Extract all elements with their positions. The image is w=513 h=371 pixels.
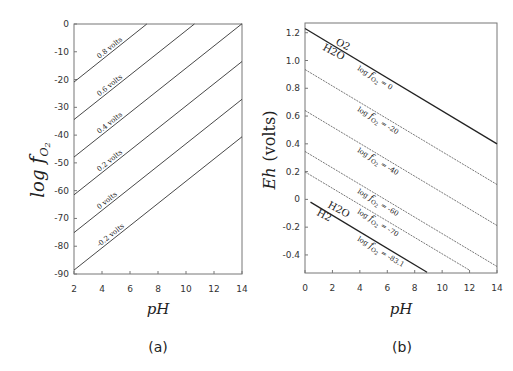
x-tick-label: 12 [464, 283, 475, 293]
x-tick-label: 14 [236, 284, 248, 294]
panel-a: 0-10-20-30-40-50-60-70-80-90 2468101214 … [25, 19, 248, 355]
y-tick-label: -90 [54, 269, 69, 279]
species-o2-h2o: O2 H2O [321, 32, 352, 62]
panel-b-y-axis-title: Eh(volts) [260, 111, 279, 191]
x-tick-label: 14 [491, 283, 503, 293]
line-label: log fO2 = -83.1 [355, 233, 407, 270]
y-tick-label: 0.2 [286, 167, 300, 177]
y-tick-label: -0.2 [282, 222, 300, 232]
panel-a-x-axis-title: pH [147, 300, 171, 318]
y-tick-label: -40 [54, 130, 69, 140]
y-tick-label: -10 [54, 47, 69, 57]
y-tick-label: 1.2 [286, 28, 300, 38]
panel-a-caption: (a) [148, 339, 168, 355]
y-tick-label: 0 [294, 194, 300, 204]
line-label: 0.6 volts [95, 73, 124, 98]
x-tick-label: 8 [155, 284, 161, 294]
panel-b-lines [305, 29, 497, 273]
panel-b-caption: (b) [392, 339, 412, 355]
y-tick-label: -20 [54, 75, 69, 85]
panel-b-y-ticks: 1.21.00.80.60.40.20-0.2-0.4 [282, 28, 308, 260]
x-tick-label: 4 [99, 284, 105, 294]
panel-a-lines [74, 24, 242, 270]
line-label: 0.8 volts [95, 35, 124, 60]
y-tick-label: -70 [54, 213, 69, 223]
y-tick-label: 1.0 [286, 56, 301, 66]
panel-a-line-labels: 0.8 volts0.6 volts0.4 volts0.2 volts0 vo… [95, 35, 126, 248]
line-label: log fO2 = -40 [355, 145, 401, 179]
y-tick-label: 0.8 [286, 83, 301, 93]
x-tick-label: 6 [127, 284, 133, 294]
y-tick-label: -30 [54, 102, 69, 112]
y-tick-label: 0 [63, 19, 69, 29]
x-tick-label: 10 [436, 283, 448, 293]
panel-b-plot-frame [305, 23, 497, 273]
y-tick-label: 0.4 [286, 139, 301, 149]
line-label: 0 volts [95, 190, 119, 211]
y-tick-label: -80 [54, 241, 69, 251]
x-tick-label: 10 [180, 284, 192, 294]
series-line [74, 24, 147, 82]
y-tick-label: -0.4 [282, 250, 300, 260]
line-label: log fO2 = 0 [355, 63, 395, 94]
y-tick-label: 0.6 [286, 111, 301, 121]
species-h2o-h2: H2O H2 [315, 196, 352, 230]
y-tick-label: -60 [54, 186, 69, 196]
x-tick-label: 4 [357, 283, 363, 293]
x-tick-label: 8 [412, 283, 418, 293]
panel-a-y-axis-title: log fO2 [25, 142, 52, 197]
line-label: log fO2 = -20 [355, 104, 401, 138]
line-label: 0.2 volts [95, 148, 124, 173]
x-tick-label: 2 [71, 284, 77, 294]
panel-b-x-axis-title: pH [390, 300, 414, 318]
line-label: -0.2 volts [95, 222, 126, 249]
x-tick-label: 2 [330, 283, 336, 293]
figure: 0-10-20-30-40-50-60-70-80-90 2468101214 … [0, 0, 513, 371]
y-tick-label: -50 [54, 158, 69, 168]
x-tick-label: 12 [208, 284, 219, 294]
line-label: 0.4 volts [95, 110, 124, 135]
x-tick-label: 6 [384, 283, 390, 293]
panel-b: 1.21.00.80.60.40.20-0.2-0.4 02468101214 … [260, 23, 503, 355]
x-tick-label: 0 [302, 283, 308, 293]
series-line [74, 24, 194, 120]
